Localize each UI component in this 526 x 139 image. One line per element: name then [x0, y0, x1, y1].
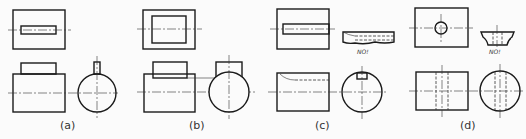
side-view-c	[342, 66, 382, 119]
drawing-canvas: (a) (b)	[0, 0, 526, 139]
incorrect-section-c: NO!	[343, 32, 394, 55]
panel-label-d: (d)	[460, 119, 476, 132]
side-view-a	[78, 56, 116, 118]
top-view-b	[137, 10, 202, 49]
panel-b: (b)	[137, 10, 255, 132]
front-view-a	[8, 63, 118, 112]
top-view-c	[270, 9, 335, 49]
projection-drawings: (a) (b)	[0, 0, 526, 139]
side-view-b	[209, 55, 249, 119]
no-annotation-c: NO!	[357, 48, 369, 55]
panel-label-c: (c)	[315, 119, 330, 132]
top-view-d	[409, 8, 473, 47]
panel-c: NO! (c)	[268, 9, 394, 132]
panel-d: NO! (d)	[409, 8, 524, 132]
incorrect-section-d: NO!	[481, 25, 514, 55]
panel-label-a: (a)	[60, 119, 75, 132]
panel-a: (a)	[8, 10, 118, 132]
panel-label-b: (b)	[189, 119, 205, 132]
no-annotation-d: NO!	[489, 48, 501, 55]
top-view-a	[8, 10, 71, 49]
front-view-c	[268, 73, 387, 111]
